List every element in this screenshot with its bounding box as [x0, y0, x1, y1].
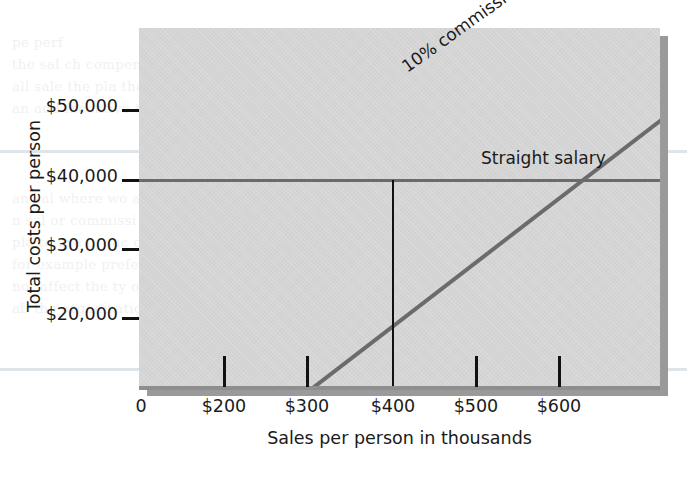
y-tick-mark-40000: [122, 179, 139, 182]
y-tick-mark-50000: [122, 109, 139, 112]
series-label-straight-salary: Straight salary: [481, 148, 606, 168]
y-axis-label-50000: $50,000: [0, 96, 118, 116]
breakeven-drop-line: [392, 180, 394, 386]
x-axis-title: Sales per person in thousands: [139, 428, 660, 448]
y-axis-label-20000: $20,000: [0, 304, 118, 324]
y-axis-label-30000: $30,000: [0, 235, 118, 255]
x-tick-mark-500: [475, 356, 478, 387]
y-tick-mark-30000: [122, 248, 139, 251]
series-10-percent-commission: [278, 56, 660, 388]
y-tick-mark-20000: [122, 317, 139, 320]
x-tick-mark-600: [558, 356, 561, 387]
y-axis-label-40000: $40,000: [0, 166, 118, 186]
cost-comparison-chart: 10% commission Straight salary $50,000 $…: [0, 0, 687, 477]
x-tick-mark-200: [223, 356, 226, 387]
plot-area: [139, 28, 660, 388]
y-axis-title: Total costs per person: [24, 106, 44, 326]
x-tick-mark-300: [306, 356, 309, 387]
x-axis-label-600: $600: [504, 396, 614, 416]
x-axis-line: [139, 386, 660, 390]
series-straight-salary: [139, 179, 660, 182]
